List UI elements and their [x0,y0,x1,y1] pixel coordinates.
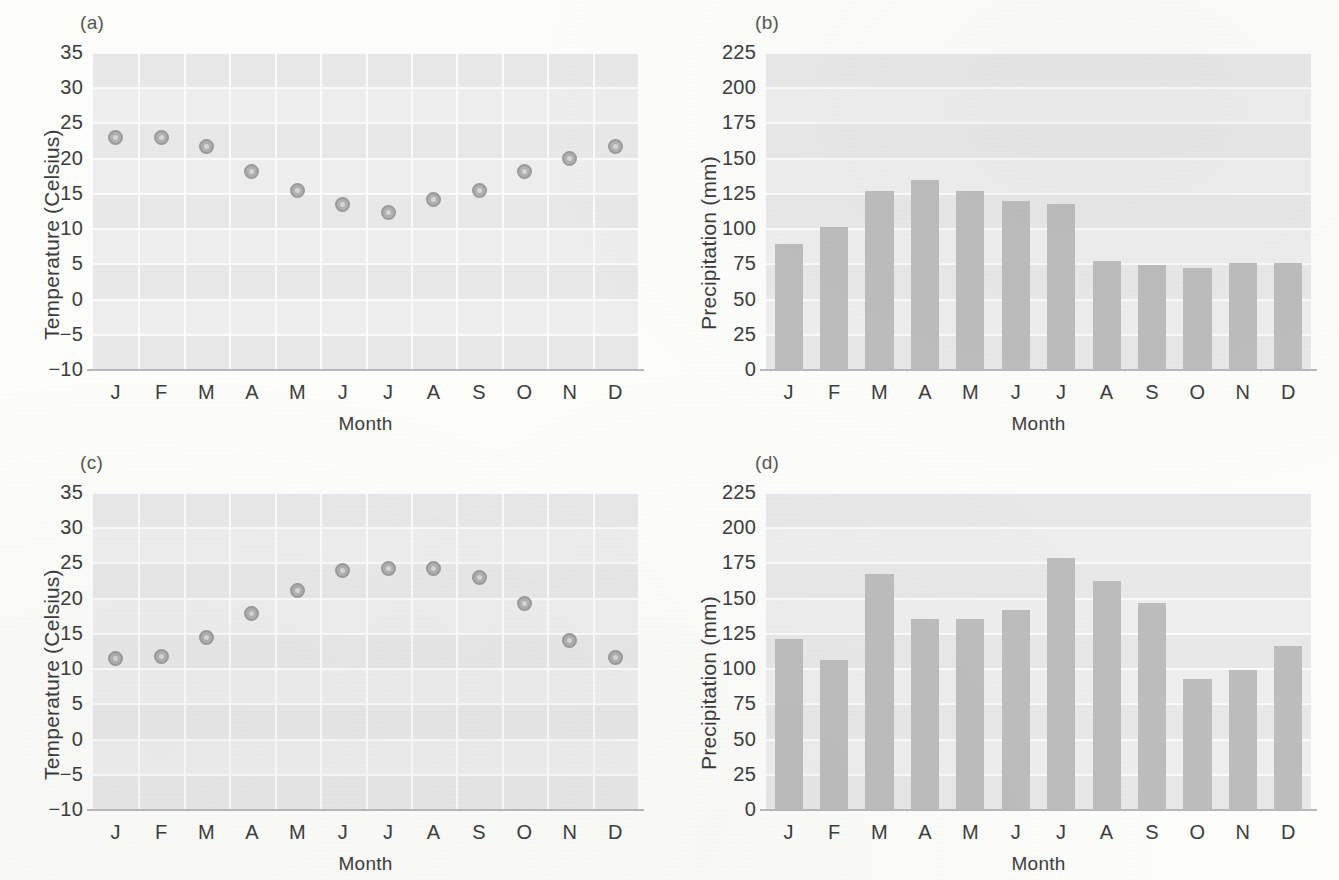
x-axis-tick-label: F [155,821,167,844]
y-axis-tick-label: 100 [682,657,756,680]
y-axis-tick-label: 25 [9,111,83,134]
vertical-gridline [138,492,140,809]
y-axis-tick-label: 0 [682,358,756,381]
x-axis-tick-label: O [1190,821,1206,844]
vertical-gridline [275,492,277,809]
y-axis-tick-label: 10 [9,217,83,240]
x-axis-tick-label: D [608,381,623,404]
panel-label-b: (b) [755,12,779,34]
x-axis-tick-label: A [1100,381,1114,404]
y-axis-tick-label: 30 [9,76,83,99]
x-axis-tick-label: J [383,381,393,404]
x-axis-tick-label: J [383,821,393,844]
x-axis-tick-label: M [198,821,215,844]
vertical-gridline [411,52,413,369]
data-point-marker [608,139,623,154]
plot-area [766,492,1311,809]
x-axis-tick-label: D [608,821,623,844]
panel-a-temperature-scatter: (a)Temperature (Celsius)35302520151050−5… [0,0,660,440]
x-axis-label: Month [93,413,638,435]
x-axis-tick-label: J [338,821,348,844]
x-axis-tick-label: M [962,381,979,404]
vertical-gridline [593,52,595,369]
x-axis-tick-label: S [1145,381,1159,404]
y-axis-tick-label: 75 [682,692,756,715]
bar [820,227,848,369]
x-axis-tick-label: J [784,381,794,404]
y-axis-tick-label: 125 [682,181,756,204]
x-axis-tick-label: S [1145,821,1159,844]
grid-band [766,492,1311,527]
bar [1229,670,1257,809]
data-point-marker [154,130,169,145]
x-axis-label: Month [766,413,1311,435]
x-axis-tick-label: M [289,381,306,404]
y-axis-tick-label: 175 [682,551,756,574]
x-axis-tick-label: A [1100,821,1114,844]
bar [865,574,893,809]
y-axis-tick-label: 30 [9,516,83,539]
x-axis-tick-label: J [338,381,348,404]
data-point-marker [244,606,259,621]
vertical-gridline [275,52,277,369]
y-axis-tick-label: 20 [9,586,83,609]
horizontal-gridline [766,52,1311,54]
bar [1002,201,1030,369]
data-point-marker [472,183,487,198]
horizontal-gridline [766,87,1311,89]
y-axis-tick-label: 200 [682,516,756,539]
y-axis-tick-label: −10 [9,358,83,381]
x-axis-line [87,809,644,811]
horizontal-gridline [766,492,1311,494]
x-axis-tick-label: A [918,381,932,404]
bar [1183,268,1211,369]
x-axis-tick-label: M [962,821,979,844]
panel-label-c: (c) [80,452,103,474]
vertical-gridline [138,52,140,369]
figure-panel-grid: (a)Temperature (Celsius)35302520151050−5… [0,0,1339,880]
y-axis-tick-label: 100 [682,217,756,240]
x-axis-tick-label: N [1236,381,1251,404]
panel-label-a: (a) [80,12,104,34]
data-point-marker [472,570,487,585]
x-axis-tick-label: A [427,381,441,404]
panel-c-temperature-scatter: (c)Temperature (Celsius)35302520151050−5… [0,440,660,880]
y-axis-tick-label: 35 [9,41,83,64]
y-axis-tick-label: 20 [9,146,83,169]
bar [1002,610,1030,809]
x-axis-tick-label: J [1011,381,1021,404]
y-axis-tick-label: 10 [9,657,83,680]
bar [775,244,803,369]
bar [1274,263,1302,369]
y-axis-tick-label: 225 [682,41,756,64]
x-axis-tick-label: J [784,821,794,844]
bar [1183,679,1211,809]
bar [1229,263,1257,369]
y-axis-tick-label: −5 [9,322,83,345]
y-axis-tick-label: 50 [682,287,756,310]
y-axis-tick-label: 5 [9,252,83,275]
panel-b-precipitation-bar: (b)Precipitation (mm)2252001751501251007… [660,0,1339,440]
x-axis-tick-label: A [245,381,259,404]
x-axis-label: Month [93,853,638,875]
data-point-marker [517,596,532,611]
x-axis-tick-label: D [1281,821,1296,844]
horizontal-gridline [766,633,1311,635]
x-axis-tick-label: D [1281,381,1296,404]
bar [865,191,893,369]
x-axis-tick-label: A [245,821,259,844]
y-axis-tick-label: 150 [682,586,756,609]
x-axis-tick-label: O [517,381,533,404]
y-axis-tick-label: 25 [682,762,756,785]
y-axis-tick-label: 0 [9,727,83,750]
vertical-gridline [593,492,595,809]
plot-area [93,492,638,809]
x-axis-tick-label: N [1236,821,1251,844]
x-axis-tick-label: O [517,821,533,844]
horizontal-gridline [766,562,1311,564]
panel-d-precipitation-bar: (d)Precipitation (mm)2252001751501251007… [660,440,1339,880]
y-axis-tick-label: 35 [9,481,83,504]
x-axis-tick-label: S [472,821,486,844]
horizontal-gridline [766,598,1311,600]
x-axis-line [760,809,1317,811]
